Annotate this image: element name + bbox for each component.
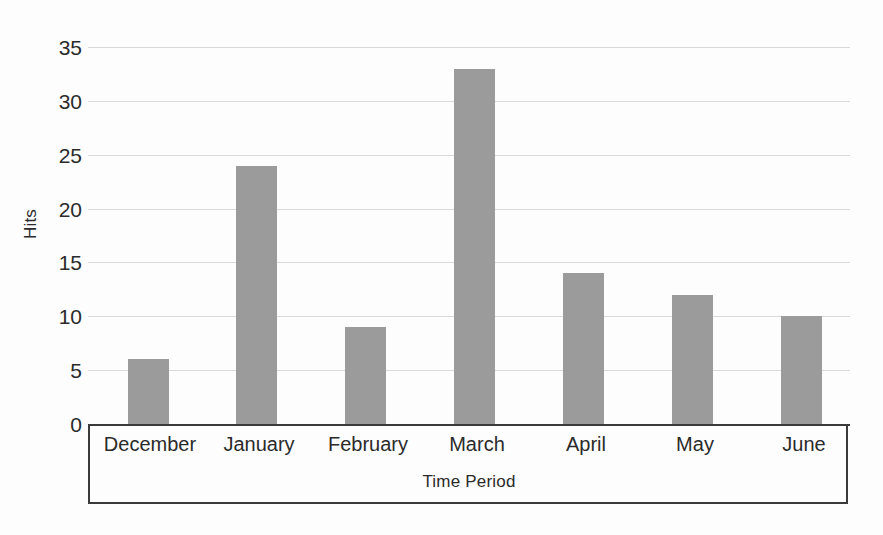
y-tick-label: 20: [36, 198, 82, 219]
y-tick-label: 10: [36, 306, 82, 327]
bar-march[interactable]: [454, 69, 495, 424]
y-tick-label: 35: [36, 37, 82, 58]
x-tick-label-june: June: [729, 432, 879, 456]
bar-may[interactable]: [672, 295, 713, 424]
y-axis-title: Hits: [21, 191, 41, 257]
bar-june[interactable]: [781, 316, 822, 424]
y-tick-label: 30: [36, 90, 82, 111]
bar-december[interactable]: [128, 359, 169, 424]
bar-february[interactable]: [345, 327, 386, 424]
y-axis: 35 30 25 20 15 10 5 0: [20, 0, 82, 535]
x-axis-title: Time Period: [88, 472, 850, 492]
bar-january[interactable]: [236, 166, 277, 425]
bar-chart-screenshot: 35 30 25 20 15 10 5 0 Hits December Janu…: [0, 0, 883, 535]
y-tick-label: 25: [36, 144, 82, 165]
bar-series: [88, 47, 850, 424]
y-tick-label: 15: [36, 252, 82, 273]
x-axis-category-box: December January February March April Ma…: [88, 424, 848, 504]
y-tick-label: 5: [36, 360, 82, 381]
bar-april[interactable]: [563, 273, 604, 424]
